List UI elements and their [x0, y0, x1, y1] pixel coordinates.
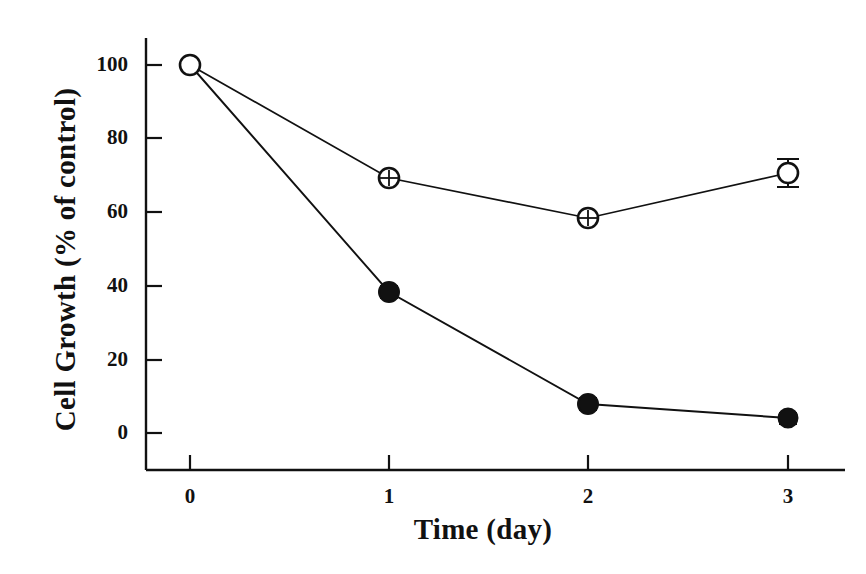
- x-tick-label-3: 3: [768, 484, 808, 509]
- figure-container: 100 80 60 40 20 0 0 1 2 3 Cell Growth (%…: [0, 0, 866, 574]
- x-axis-ticks: [190, 455, 788, 470]
- line-chart-plot: [0, 0, 866, 574]
- marker-filled-day2: [578, 394, 598, 414]
- x-tick-label-0: 0: [170, 484, 210, 509]
- y-axis-title: Cell Growth (% of control): [49, 60, 82, 460]
- marker-open-day0: [180, 55, 200, 75]
- marker-open-day3: [778, 163, 798, 183]
- markers-open-circles: [180, 55, 798, 228]
- axes-spines: [146, 38, 845, 470]
- series-line-filled-circles: [190, 65, 788, 418]
- bottom-caption-fragment: [40, 563, 840, 574]
- y-axis-ticks: [146, 65, 162, 433]
- markers-filled-circles: [379, 282, 798, 428]
- x-tick-label-1: 1: [369, 484, 409, 509]
- x-tick-label-2: 2: [568, 484, 608, 509]
- series-line-open-circles: [190, 65, 788, 218]
- x-axis-title: Time (day): [333, 513, 633, 546]
- marker-filled-day1: [379, 282, 399, 302]
- marker-filled-day3: [779, 409, 798, 428]
